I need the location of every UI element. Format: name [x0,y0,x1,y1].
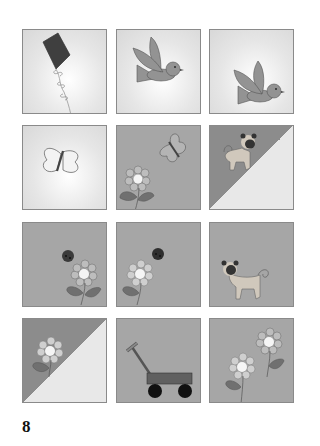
tile-wagon [116,318,201,403]
ladybug-icon [152,248,164,260]
bird-icon [117,30,201,114]
flower-icon [120,166,154,210]
tile-ladybug-flower-1 [22,222,107,307]
kite-icon [23,30,107,114]
wagon-icon [117,319,201,403]
tile-two-flowers [209,318,294,403]
tile-ladybug-flower-2 [116,222,201,307]
ladybug-flower-icon [117,223,201,307]
tile-pug [209,222,294,307]
tile-pug-diagonal [209,125,294,210]
tile-bird-1 [116,29,201,114]
ladybug-flower-icon [23,223,107,307]
pug-icon [210,223,294,307]
butterfly-icon [23,126,107,210]
ladybug-icon [62,250,74,262]
tile-butterfly [22,125,107,210]
tile-flower-diagonal [22,318,107,403]
bird-icon [210,30,294,114]
tile-bird-2 [209,29,294,114]
tile-kite [22,29,107,114]
flower-icon [23,319,107,403]
butterfly-flower-icon [117,126,201,210]
two-flowers-icon [210,319,294,403]
tile-butterfly-flower [116,125,201,210]
pug-icon [210,126,294,210]
page-number: 8 [22,417,31,437]
